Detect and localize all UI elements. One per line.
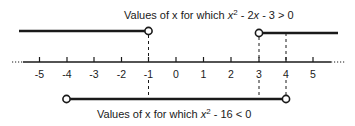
open-circle-icon bbox=[282, 95, 289, 102]
open-circle-icon bbox=[145, 27, 152, 34]
tick-label: 3 bbox=[256, 68, 262, 80]
axis-ticks bbox=[40, 57, 314, 62]
interval-x-greater-than-3 bbox=[255, 29, 338, 36]
tick-label: -4 bbox=[62, 68, 71, 80]
tick-label: 0 bbox=[173, 68, 179, 80]
open-circle-icon bbox=[63, 95, 70, 102]
open-circle-icon bbox=[255, 29, 262, 36]
interval-x-less-than-minus-1 bbox=[19, 27, 152, 34]
tick-label: -3 bbox=[89, 68, 98, 80]
dashed-guides bbox=[149, 33, 287, 99]
tick-label: -1 bbox=[144, 68, 153, 80]
tick-label: 2 bbox=[228, 68, 234, 80]
bottom-caption: Values of x for which x2 - 16 < 0 bbox=[97, 107, 251, 120]
tick-label: 5 bbox=[310, 68, 316, 80]
tick-label: -5 bbox=[35, 68, 44, 80]
tick-labels: -5 -4 -3 -2 -1 0 1 2 3 4 5 bbox=[35, 68, 316, 80]
number-line-axis: -5 -4 -3 -2 -1 0 1 2 3 4 5 bbox=[12, 57, 345, 80]
top-caption: Values of x for which x2 - 2x - 3 > 0 bbox=[124, 8, 294, 21]
tick-label: -2 bbox=[117, 68, 126, 80]
tick-label: 4 bbox=[283, 68, 289, 80]
number-line-diagram: Values of x for which x2 - 2x - 3 > 0 bbox=[0, 0, 355, 126]
interval-x-between-minus-4-and-4 bbox=[63, 95, 290, 102]
tick-label: 1 bbox=[201, 68, 207, 80]
